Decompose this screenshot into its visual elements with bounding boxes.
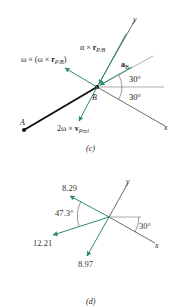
point-b-label: B xyxy=(92,93,97,102)
kinematics-diagram: y x A B 30° 30° ω × (ω × rP/B) α × rP/B … xyxy=(0,0,186,307)
angle-axis-label: 30° xyxy=(139,221,151,231)
vector-8-29-label: 8.29 xyxy=(62,183,77,193)
accel-b-vector-label: aB xyxy=(121,60,129,70)
x-axis-label: x xyxy=(154,241,159,250)
vector-8-29-arrow xyxy=(70,196,109,217)
part-d-caption: (d) xyxy=(86,297,96,306)
y-axis-label: y xyxy=(125,177,130,186)
tangential-vector-label: α × rP/B xyxy=(80,43,106,53)
y-axis xyxy=(109,183,128,217)
part-d-diagram: y x 8.29 12.21 8.97 47.3° 30° (d) xyxy=(33,177,159,306)
point-a-dot xyxy=(22,128,26,132)
y-axis-label: y xyxy=(132,15,137,24)
part-c-diagram: y x A B 30° 30° ω × (ω × rP/B) α × rP/B … xyxy=(19,15,168,153)
point-a-label: A xyxy=(19,118,25,127)
x-axis-label: x xyxy=(163,123,168,132)
angle-lower-label: 30° xyxy=(129,92,141,102)
angle-arc-upper xyxy=(119,75,122,87)
angle-arc-lower xyxy=(119,87,122,100)
centripetal-vector-label: ω × (ω × rP/B) xyxy=(21,55,67,65)
angle-upper-label: 30° xyxy=(129,74,141,84)
vector-8-97-label: 8.97 xyxy=(78,259,93,269)
vector-12-21-label: 12.21 xyxy=(33,238,52,248)
angle-arc-between xyxy=(77,201,81,226)
angle-between-label: 47.3° xyxy=(55,208,73,218)
part-c-caption: (c) xyxy=(86,144,95,153)
tangential-vector-arrow xyxy=(99,34,126,84)
centripetal-vector-arrow xyxy=(65,68,97,87)
coriolis-vector-label: 2ω × vPrel xyxy=(57,124,89,134)
